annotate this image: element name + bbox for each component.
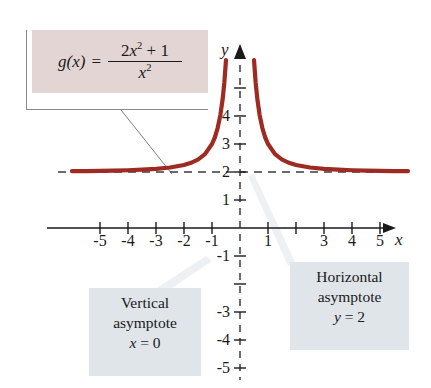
x-tick-label--5: -5 bbox=[88, 232, 112, 250]
formula-function-name: g(x) bbox=[58, 52, 85, 72]
y-tick-label--1: -1 bbox=[202, 247, 230, 265]
formula-fraction: 2x2 + 1 x2 bbox=[108, 42, 182, 82]
x-axis-label: x bbox=[395, 230, 403, 250]
formula-expression: g(x) = 2x2 + 1 x2 bbox=[58, 42, 182, 82]
horizontal-note-line1: Horizontal bbox=[298, 267, 401, 287]
vertical-note-equation: x = 0 bbox=[97, 333, 193, 353]
vertical-asymptote-note: Vertical asymptote x = 0 bbox=[89, 288, 201, 376]
y-tick-label--5: -5 bbox=[202, 359, 230, 377]
y-tick-label-4: 4 bbox=[206, 107, 230, 125]
x-tick-label--3: -3 bbox=[144, 232, 168, 250]
horizontal-note-leader bbox=[248, 174, 296, 266]
y-tick-label-3: 3 bbox=[206, 135, 230, 153]
formula-numerator: 2x2 + 1 bbox=[115, 42, 175, 61]
y-axis-label: y bbox=[221, 40, 229, 60]
formula-callout: g(x) = 2x2 + 1 x2 bbox=[32, 30, 208, 93]
y-tick-label-2: 2 bbox=[206, 163, 230, 181]
x-tick-label--2: -2 bbox=[172, 232, 196, 250]
vertical-note-line2: asymptote bbox=[97, 313, 193, 333]
x-tick-label-4: 4 bbox=[340, 232, 364, 250]
x-tick-label-5: 5 bbox=[368, 232, 392, 250]
y-tick-label--4: -4 bbox=[202, 331, 230, 349]
y-tick-label--3: -3 bbox=[202, 303, 230, 321]
y-axis-arrowhead bbox=[234, 44, 246, 59]
y-tick-label-1: 1 bbox=[206, 191, 230, 209]
formula-leader-line bbox=[121, 110, 172, 174]
x-tick-label-3: 3 bbox=[312, 232, 336, 250]
horizontal-note-line2: asymptote bbox=[298, 287, 401, 307]
vertical-note-line1: Vertical bbox=[97, 293, 193, 313]
horizontal-asymptote-note: Horizontal asymptote y = 2 bbox=[290, 262, 409, 350]
formula-equals: = bbox=[91, 52, 101, 72]
curve-right-branch bbox=[254, 60, 408, 171]
function-graph-figure: g(x) = 2x2 + 1 x2 y x -5 -4 -3 -2 -1 1 3… bbox=[0, 0, 431, 388]
horizontal-note-equation: y = 2 bbox=[298, 307, 401, 327]
x-tick-label--4: -4 bbox=[116, 232, 140, 250]
formula-denominator: x2 bbox=[133, 62, 158, 82]
x-tick-label-1: 1 bbox=[256, 232, 280, 250]
